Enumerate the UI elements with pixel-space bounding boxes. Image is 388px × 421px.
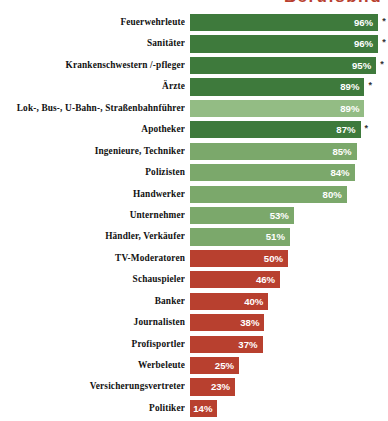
bar: 89%	[190, 78, 364, 95]
bar-track: 51%	[190, 228, 388, 245]
bar-category-label: Apotheker	[0, 121, 185, 138]
bar-category-label: Werbeleute	[0, 357, 185, 374]
bar-row: Lok-, Bus-, U-Bahn-, Straßenbahnführer89…	[0, 100, 388, 121]
bar-track: 53%	[190, 207, 388, 224]
bar-category-label: Politiker	[0, 400, 185, 417]
bar-value-label: 96%	[354, 35, 373, 52]
bar-category-label: Journalisten	[0, 314, 185, 331]
bar-row: Versicherungsvertreter23%	[0, 378, 388, 399]
bar-row: Ärzte89%*	[0, 78, 388, 99]
bar-category-label: Unternehmer	[0, 207, 185, 224]
bar-row: Politiker14%	[0, 400, 388, 421]
bar-value-label: 40%	[244, 293, 263, 310]
bar-category-label: Versicherungsvertreter	[0, 378, 185, 395]
bar-row: Händler, Verkäufer51%	[0, 228, 388, 249]
bar-value-label: 96%	[354, 14, 373, 31]
bar-row: Handwerker80%	[0, 186, 388, 207]
bar-value-label: 25%	[215, 357, 234, 374]
bar-category-label: Banker	[0, 293, 185, 310]
bar-track: 85%	[190, 143, 388, 160]
bar-track: 37%	[190, 336, 388, 353]
bar-value-label: 37%	[238, 336, 257, 353]
bar-value-label: 53%	[270, 207, 289, 224]
bar-value-label: 14%	[193, 400, 212, 417]
bar: 96%	[190, 35, 378, 52]
footnote-asterisk-icon: *	[382, 14, 386, 31]
bar: 14%	[190, 400, 217, 417]
bar-row: Polizisten84%	[0, 164, 388, 185]
bar-row: Sanitäter96%*	[0, 35, 388, 56]
bar-track: 14%	[190, 400, 388, 417]
bar-track: 96%*	[190, 35, 388, 52]
bar-track: 96%*	[190, 14, 388, 31]
bar-category-label: TV-Moderatoren	[0, 250, 185, 267]
bar-track: 80%	[190, 186, 388, 203]
bar-track: 46%	[190, 271, 388, 288]
bar: 80%	[190, 186, 347, 203]
bar-rows-container: Feuerwehrleute96%*Sanitäter96%*Krankensc…	[0, 14, 388, 421]
bar: 84%	[190, 164, 355, 181]
bar-row: Banker40%	[0, 293, 388, 314]
bar: 37%	[190, 336, 263, 353]
bar-track: 89%*	[190, 78, 388, 95]
bar-track: 84%	[190, 164, 388, 181]
chart-title-strip: Berufsbild	[0, 0, 388, 7]
bar: 89%	[190, 100, 364, 117]
bar-category-label: Profisportler	[0, 336, 185, 353]
footnote-asterisk-icon: *	[382, 35, 386, 52]
bar-value-label: 51%	[266, 228, 285, 245]
bar-category-label: Handwerker	[0, 186, 185, 203]
bar-row: TV-Moderatoren50%	[0, 250, 388, 271]
bar-row: Apotheker87%*	[0, 121, 388, 142]
bar: 40%	[190, 293, 268, 310]
footnote-asterisk-icon: *	[380, 57, 384, 74]
bar-value-label: 85%	[332, 143, 351, 160]
bar-category-label: Lok-, Bus-, U-Bahn-, Straßenbahnführer	[0, 100, 185, 117]
bar-category-label: Schauspieler	[0, 271, 185, 288]
bar: 38%	[190, 314, 264, 331]
footnote-asterisk-icon: *	[368, 78, 372, 95]
bar-category-label: Ärzte	[0, 78, 185, 95]
bar: 87%	[190, 121, 361, 138]
bar-value-label: 84%	[330, 164, 349, 181]
bar-track: 23%	[190, 378, 388, 395]
bar: 51%	[190, 228, 290, 245]
bar-value-label: 46%	[256, 271, 275, 288]
bar-row: Profisportler37%	[0, 336, 388, 357]
bar-category-label: Händler, Verkäufer	[0, 228, 185, 245]
bar-row: Werbeleute25%	[0, 357, 388, 378]
bar-value-label: 50%	[264, 250, 283, 267]
bar: 46%	[190, 271, 280, 288]
bar-value-label: 89%	[340, 100, 359, 117]
bar-row: Ingenieure, Techniker85%	[0, 143, 388, 164]
bar-row: Unternehmer53%	[0, 207, 388, 228]
bar-track: 38%	[190, 314, 388, 331]
page-title: Berufsbild	[284, 0, 382, 7]
bar-track: 89%	[190, 100, 388, 117]
bar-track: 95%*	[190, 57, 388, 74]
bar: 53%	[190, 207, 294, 224]
bar: 95%	[190, 57, 376, 74]
bar-category-label: Feuerwehrleute	[0, 14, 185, 31]
bar-category-label: Sanitäter	[0, 35, 185, 52]
bar-track: 87%*	[190, 121, 388, 138]
bar-value-label: 89%	[340, 78, 359, 95]
bar: 25%	[190, 357, 239, 374]
bar-track: 50%	[190, 250, 388, 267]
bar-row: Feuerwehrleute96%*	[0, 14, 388, 35]
bar-value-label: 38%	[240, 314, 259, 331]
bar-row: Schauspieler46%	[0, 271, 388, 292]
bar-category-label: Krankenschwestern /-pfleger	[0, 57, 185, 74]
bar: 50%	[190, 250, 288, 267]
footnote-asterisk-icon: *	[365, 121, 369, 138]
bar-row: Krankenschwestern /-pfleger95%*	[0, 57, 388, 78]
bar: 96%	[190, 14, 378, 31]
bar: 23%	[190, 378, 235, 395]
bar-value-label: 80%	[323, 186, 342, 203]
bar-track: 40%	[190, 293, 388, 310]
bar-row: Journalisten38%	[0, 314, 388, 335]
bar-category-label: Polizisten	[0, 164, 185, 181]
bar-category-label: Ingenieure, Techniker	[0, 143, 185, 160]
bar-track: 25%	[190, 357, 388, 374]
